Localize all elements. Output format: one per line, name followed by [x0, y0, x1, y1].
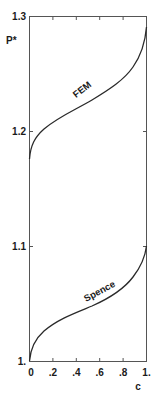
x-ticks	[53, 17, 123, 362]
y-tick-label: 1.1	[12, 241, 26, 252]
x-tick-label: .6	[96, 367, 105, 378]
x-axis-title: c	[135, 381, 141, 392]
fem-curve-label: FEM	[71, 79, 94, 100]
spence-curve-label: Spence	[82, 278, 117, 304]
fem-curve	[30, 27, 147, 159]
y-tick-label: 1.	[18, 356, 27, 367]
x-tick-label: 1.	[142, 367, 151, 378]
x-tick-label: 0	[28, 367, 34, 378]
plot-frame	[30, 17, 147, 362]
chart: 1.3 1.2 1.1 1. P* 0 .2 .4 .6 .8 1. c FEM…	[0, 0, 161, 396]
x-tick-label: .2	[49, 367, 58, 378]
y-axis-title: P*	[6, 35, 17, 46]
y-ticks	[30, 132, 147, 247]
x-tick-label: .8	[119, 367, 128, 378]
x-tick-label: .4	[72, 367, 81, 378]
y-tick-label: 1.2	[12, 126, 26, 137]
y-tick-label: 1.3	[12, 11, 26, 22]
spence-curve	[30, 246, 147, 361]
